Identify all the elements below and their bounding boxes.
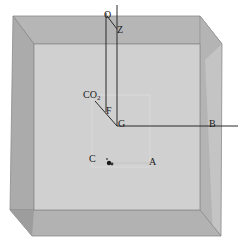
bottom-left-corner (10, 210, 34, 236)
label-b: B (209, 118, 216, 129)
label-f: F (106, 105, 112, 116)
bottom-face (10, 210, 221, 236)
label-co2-sub: 2 (97, 94, 101, 102)
box-diagram: O Z CO2 F G B C A (0, 0, 243, 244)
label-o: O (104, 9, 111, 20)
label-c: C (89, 153, 96, 164)
label-g: G (118, 118, 125, 129)
label-a: A (149, 156, 157, 167)
label-co2-main: CO (83, 89, 97, 100)
left-face (10, 16, 34, 210)
label-z: Z (117, 24, 123, 35)
